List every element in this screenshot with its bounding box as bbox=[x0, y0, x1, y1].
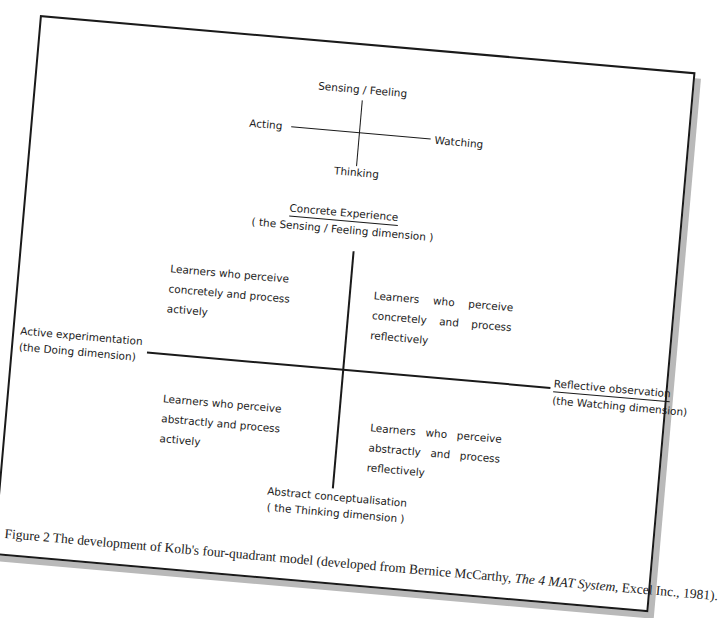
pole-left: Active experimentation (the Doing dimens… bbox=[18, 323, 143, 366]
small-label-left: Acting bbox=[249, 113, 284, 136]
main-diagram: Concrete Experience ( the Sensing / Feel… bbox=[42, 17, 694, 74]
quadrant-bottom-right: Learners who perceive abstractly and pro… bbox=[366, 417, 503, 488]
small-label-top: Sensing / Feeling bbox=[317, 76, 408, 104]
pole-bottom: Abstract conceptualisation ( the Thinkin… bbox=[265, 483, 407, 527]
figure-caption: Figure 2 The development of Kolb's four-… bbox=[4, 526, 719, 604]
caption-book-title: The 4 MAT System bbox=[514, 571, 616, 595]
main-horizontal-axis bbox=[147, 352, 551, 389]
caption-suffix: , Excel Inc., 1981). bbox=[615, 579, 719, 603]
small-label-bottom: Thinking bbox=[333, 160, 380, 184]
quadrant-top-right: Learners who perceive concretely and pro… bbox=[369, 285, 514, 357]
small-diagram: Sensing / Feeling Acting Watching Thinki… bbox=[42, 17, 694, 74]
quadrant-top-left: Learners who perceive concretely and pro… bbox=[166, 258, 311, 330]
small-label-right: Watching bbox=[434, 130, 484, 154]
small-horizontal-axis bbox=[291, 126, 431, 139]
quadrant-bottom-left: Learners who perceive abstractly and pro… bbox=[159, 388, 304, 460]
pole-top: Concrete Experience ( the Sensing / Feel… bbox=[251, 196, 436, 245]
figure-page: Sensing / Feeling Acting Watching Thinki… bbox=[0, 15, 695, 612]
caption-prefix: Figure 2 The development of Kolb's four-… bbox=[4, 526, 515, 586]
pole-right: Reflective observation (the Watching dim… bbox=[552, 375, 690, 420]
